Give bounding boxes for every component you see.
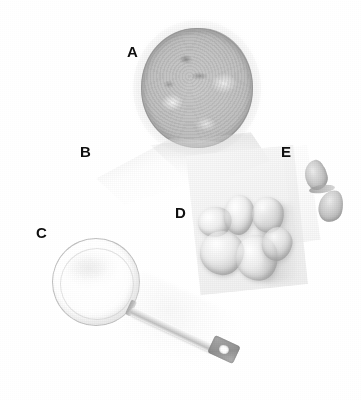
specimen-figure: A B C D E (0, 0, 362, 400)
film-grain-overlay (0, 0, 362, 400)
specimen-d-shadow (258, 204, 300, 283)
large-round-mottled-specimen (141, 28, 253, 148)
sphere-inner-texture (66, 252, 118, 288)
instrument-highlight (109, 270, 252, 393)
faint-pale-sheet (96, 138, 226, 208)
panel-label-e: E (281, 144, 291, 159)
nodular-lobulated-mass (196, 193, 294, 287)
bowtie-structure (303, 160, 345, 228)
bowtie-lower-lobe (316, 188, 346, 224)
nodule-lobe (233, 232, 281, 283)
nodule-lobe (258, 224, 295, 264)
panel-label-d: D (175, 205, 186, 220)
specimen-a-halo (133, 20, 261, 156)
nodule-lobe (197, 228, 247, 278)
instrument-end-plate (207, 335, 240, 364)
faint-pale-sheet-secondary (150, 132, 270, 192)
nodule-lobe (222, 194, 256, 237)
panel-label-c: C (36, 225, 47, 240)
nodule-lobe (195, 204, 234, 240)
nodule-lobe (251, 196, 285, 234)
transparent-sphere (52, 238, 140, 326)
panel-label-a: A (127, 44, 138, 59)
bowtie-waist (309, 183, 336, 195)
panel-label-b: B (80, 144, 91, 159)
photograph-layer (0, 0, 362, 400)
instrument-collar (125, 299, 137, 316)
specimen-d-backing-square (186, 145, 308, 296)
bowtie-upper-lobe (302, 158, 331, 192)
instrument-shaft (129, 306, 216, 353)
